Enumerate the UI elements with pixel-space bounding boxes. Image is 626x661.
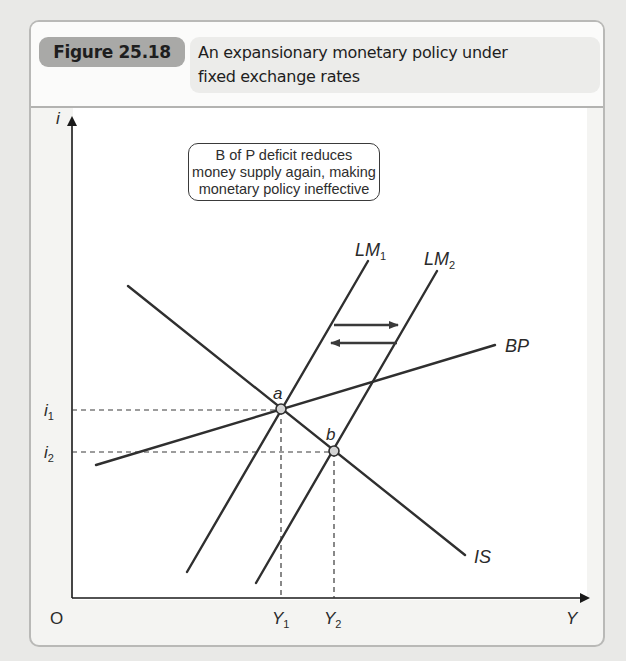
lm2-curve [256, 271, 437, 583]
lm1-label: LM1 [355, 240, 386, 262]
point-a-marker [276, 404, 286, 414]
lm2-label: LM2 [424, 249, 455, 271]
i2-label: i2 [44, 443, 54, 464]
bp-label: BP [505, 336, 529, 356]
point-b-marker [329, 446, 339, 456]
is-label: IS [474, 547, 491, 567]
y1-label: Y1 [272, 609, 289, 630]
y-axis-label: i [56, 109, 61, 128]
annotation-line1: B of P deficit reduces [189, 147, 379, 164]
lm1-curve [187, 261, 368, 572]
annotation-line3: monetary policy ineffective [189, 181, 379, 198]
point-b-label: b [326, 425, 335, 444]
origin-label: O [50, 609, 63, 628]
point-a-label: a [273, 384, 282, 403]
i1-label: i1 [44, 401, 54, 422]
is-lm-bp-diagram: i O Y i1 i2 Y1 Y2 LM1 LM2 BP IS a b [0, 0, 626, 661]
annotation-line2: money supply again, making [189, 164, 379, 181]
x-axis-label: Y [566, 609, 579, 628]
bp-curve [96, 345, 495, 465]
y2-label: Y2 [324, 609, 341, 630]
annotation-box: B of P deficit reduces money supply agai… [188, 143, 380, 201]
